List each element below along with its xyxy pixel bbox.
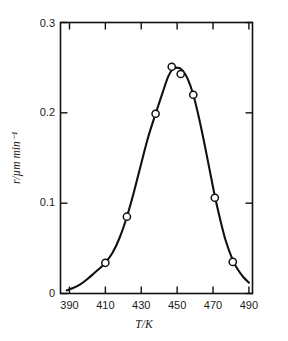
data-point bbox=[152, 110, 159, 117]
y-tick-label-0: 0 bbox=[49, 287, 55, 299]
x-axis-title: T/K bbox=[135, 318, 154, 330]
x-tick-label-430: 430 bbox=[132, 299, 150, 311]
x-tick-label-490: 490 bbox=[240, 299, 258, 311]
data-point bbox=[102, 259, 109, 266]
data-point-markers bbox=[102, 63, 237, 266]
data-point bbox=[190, 91, 197, 98]
y-axis-ticks bbox=[61, 23, 253, 294]
y-tick-label-0.3: 0.3 bbox=[40, 17, 55, 29]
data-point bbox=[229, 258, 236, 265]
data-point bbox=[177, 70, 184, 77]
x-axis-tick-labels: 390410430450470490 bbox=[60, 299, 258, 311]
data-point bbox=[123, 213, 130, 220]
y-tick-label-0.1: 0.1 bbox=[40, 196, 55, 208]
x-tick-label-390: 390 bbox=[60, 299, 78, 311]
x-tick-label-450: 450 bbox=[168, 299, 186, 311]
x-axis-ticks bbox=[69, 23, 248, 294]
y-tick-label-0.2: 0.2 bbox=[40, 106, 55, 118]
chart-figure: 390410430450470490 0.3 0.2 0.1 0 T/K r/µ… bbox=[0, 0, 288, 341]
data-point bbox=[211, 194, 218, 201]
y-axis-title: r/µm min⁻¹ bbox=[10, 131, 23, 184]
data-curve bbox=[67, 68, 249, 291]
plot-frame bbox=[61, 23, 253, 294]
x-tick-label-410: 410 bbox=[96, 299, 114, 311]
scatter-line-chart: 390410430450470490 0.3 0.2 0.1 0 T/K r/µ… bbox=[0, 0, 288, 341]
data-point bbox=[168, 63, 175, 70]
x-tick-label-470: 470 bbox=[204, 299, 222, 311]
